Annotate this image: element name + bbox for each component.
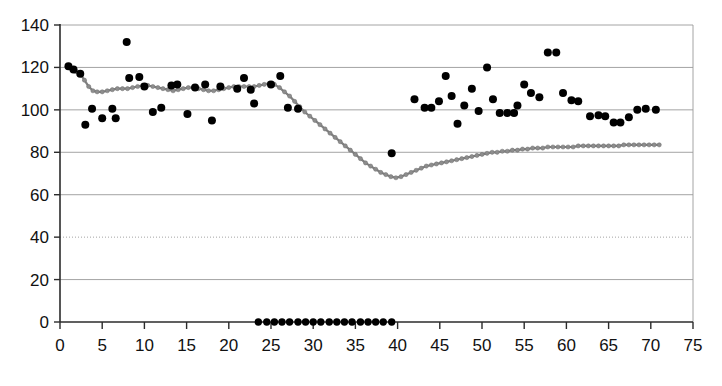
- x-axis-label-30: 30: [304, 336, 323, 355]
- fitted-trend-line-markers: [66, 65, 662, 180]
- scatter-point: [240, 74, 248, 82]
- trend-line-marker: [556, 145, 560, 149]
- scatter-point: [267, 80, 275, 88]
- trend-line-marker: [257, 83, 261, 87]
- trend-line-marker: [95, 90, 99, 94]
- scatter-point: [98, 114, 106, 122]
- trend-line-marker: [181, 87, 185, 91]
- trend-line-marker: [531, 146, 535, 150]
- scatter-point: [586, 112, 594, 120]
- scatter-point: [247, 86, 255, 94]
- trend-line-marker: [455, 158, 459, 162]
- trend-line-marker: [525, 147, 529, 151]
- trend-line-marker: [343, 144, 347, 148]
- x-axis-label-65: 65: [599, 336, 618, 355]
- scatter-point: [123, 38, 131, 46]
- trend-line-marker: [657, 143, 661, 147]
- axes: [60, 24, 693, 322]
- trend-line-marker: [125, 87, 129, 91]
- scatter-point: [475, 107, 483, 115]
- trend-line-marker: [384, 172, 388, 176]
- trend-line-marker: [546, 145, 550, 149]
- scatter-point: [388, 149, 396, 157]
- trend-line-marker: [637, 143, 641, 147]
- trend-line-marker: [617, 144, 621, 148]
- trend-line-marker: [379, 170, 383, 174]
- x-axis-label-5: 5: [97, 336, 106, 355]
- chart-canvas: 020406080100120140 051015202530354045505…: [0, 0, 722, 386]
- trend-line-marker: [485, 151, 489, 155]
- trend-line-marker: [429, 163, 433, 167]
- trend-line-marker: [424, 164, 428, 168]
- scatter-point: [527, 89, 535, 97]
- zero-baseline-point: [302, 318, 309, 325]
- observed-scatter-points: [64, 38, 659, 157]
- trend-line-marker: [627, 143, 631, 147]
- scatter-point: [112, 114, 120, 122]
- scatter-point: [442, 72, 450, 80]
- y-axis-label-100: 100: [21, 101, 49, 120]
- y-axis-label-0: 0: [40, 313, 49, 332]
- trend-line-marker: [394, 176, 398, 180]
- trend-line-marker: [151, 84, 155, 88]
- trend-line-marker: [262, 82, 266, 86]
- scatter-point: [294, 105, 302, 113]
- zero-baseline-point: [348, 318, 355, 325]
- x-axis-label-45: 45: [430, 336, 449, 355]
- trend-line-marker: [561, 145, 565, 149]
- scatter-point: [510, 109, 518, 117]
- trend-line-marker: [404, 172, 408, 176]
- trend-line-marker: [450, 159, 454, 163]
- x-axis-label-40: 40: [388, 336, 407, 355]
- trend-line-marker: [105, 89, 109, 93]
- trend-line-marker: [389, 175, 393, 179]
- y-axis-label-80: 80: [30, 143, 49, 162]
- trend-line-marker: [368, 164, 372, 168]
- zero-baseline-point: [263, 318, 270, 325]
- scatter-point: [435, 97, 443, 105]
- scatter-point: [157, 104, 165, 112]
- trend-line-marker: [287, 94, 291, 98]
- trend-line-marker: [136, 84, 140, 88]
- trend-line-marker: [419, 166, 423, 170]
- trend-line-marker: [328, 131, 332, 135]
- x-axis-label-50: 50: [473, 336, 492, 355]
- scatter-point: [535, 93, 543, 101]
- trend-line-marker: [82, 78, 86, 82]
- trend-line-marker: [647, 143, 651, 147]
- trend-line-marker: [460, 157, 464, 161]
- trend-line-marker: [333, 135, 337, 139]
- zero-baseline-point: [364, 318, 371, 325]
- scatter-point: [410, 95, 418, 103]
- trend-line-marker: [571, 145, 575, 149]
- x-axis-label-70: 70: [641, 336, 660, 355]
- zero-baseline-point: [271, 318, 278, 325]
- trend-line-marker: [642, 143, 646, 147]
- trend-line-marker: [434, 162, 438, 166]
- scatter-point: [191, 84, 199, 92]
- zero-baseline-point: [388, 318, 395, 325]
- x-axis-label-35: 35: [346, 336, 365, 355]
- trend-line-marker: [318, 123, 322, 127]
- zero-baseline-point: [341, 318, 348, 325]
- trend-line-marker: [353, 152, 357, 156]
- scatter-point: [552, 49, 560, 57]
- scatter-point: [468, 85, 476, 93]
- gridlines: [60, 25, 693, 322]
- trend-line-marker: [206, 89, 210, 93]
- trend-line-marker: [91, 89, 95, 93]
- scatter-point: [208, 116, 216, 124]
- trend-line-marker: [465, 155, 469, 159]
- trend-line-marker: [242, 84, 246, 88]
- zero-baseline-point: [333, 318, 340, 325]
- trend-line-marker: [409, 170, 413, 174]
- scatter-point: [276, 72, 284, 80]
- zero-baseline-point: [317, 318, 324, 325]
- zero-baseline-point: [326, 318, 333, 325]
- scatter-point: [483, 63, 491, 71]
- scatter-point: [652, 106, 660, 114]
- scatter-point: [513, 102, 521, 110]
- scatter-point: [183, 110, 191, 118]
- trend-line-marker: [612, 144, 616, 148]
- trend-line-marker: [520, 147, 524, 151]
